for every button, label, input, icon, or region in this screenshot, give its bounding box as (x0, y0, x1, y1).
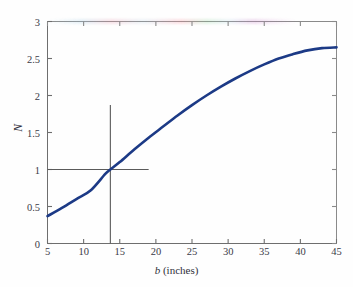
y-tick-label: 1.5 (27, 127, 40, 138)
y-tick-label: 0.5 (27, 201, 40, 212)
x-axis-title: b (inches) (0, 264, 353, 276)
figure-container: 51015202530354045 00.511.522.53 b (inche… (0, 0, 353, 287)
chart-canvas (0, 0, 353, 287)
x-tick-label: 10 (78, 246, 89, 257)
y-tick-label: 2 (35, 90, 40, 101)
x-tick-label: 15 (115, 246, 126, 257)
crosshair-guides (48, 105, 149, 243)
data-curve-n-vs-b (48, 47, 337, 216)
x-tick-label: 5 (45, 246, 50, 257)
x-tick-label: 40 (295, 246, 306, 257)
x-tick-label: 45 (331, 246, 342, 257)
x-tick-label: 20 (151, 246, 162, 257)
y-axis-title: N (12, 124, 24, 132)
x-tick-label: 35 (259, 246, 270, 257)
x-axis-variable: b (155, 264, 161, 276)
x-tick-label: 30 (223, 246, 234, 257)
y-tick-label: 3 (35, 16, 40, 27)
y-tick-label: 1 (35, 164, 40, 175)
x-axis-unit: (inches) (163, 264, 198, 276)
y-tick-label: 0 (35, 238, 40, 249)
y-tick-label: 2.5 (27, 53, 40, 64)
x-tick-label: 25 (187, 246, 198, 257)
